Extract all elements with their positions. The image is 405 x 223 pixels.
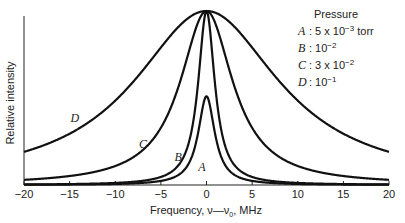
legend-value-C: : 3 x 10−2: [309, 58, 355, 71]
x-tick-label: 15: [337, 188, 349, 200]
x-tick-label: −10: [106, 188, 125, 200]
legend-entries: A: 5 x 10−3 torrB: 10−2C: 3 x 10−2D: 10−…: [297, 24, 374, 89]
legend-value-D: : 10−1: [309, 75, 337, 88]
y-axis-title: Relative intensity: [4, 61, 16, 145]
legend-key-A: A: [297, 24, 306, 38]
curve-label-B: B: [175, 150, 183, 164]
x-tick-label: −15: [60, 188, 79, 200]
legend-key-D: D: [297, 75, 307, 89]
legend-key-C: C: [298, 58, 307, 72]
curve-label-A: A: [197, 160, 206, 174]
x-tick-label: −20: [15, 188, 34, 200]
legend-title: Pressure: [314, 8, 358, 20]
x-tick-label: 5: [249, 188, 255, 200]
curve-B: [24, 11, 389, 184]
curve-label-D: D: [70, 111, 80, 125]
x-tick-label: 10: [292, 188, 304, 200]
x-tick-label: −5: [155, 188, 168, 200]
x-axis-title: Frequency, ν—ν0, MHz: [150, 204, 262, 218]
legend: Pressure A: 5 x 10−3 torrB: 10−2C: 3 x 1…: [297, 8, 374, 89]
line-chart: −20−15−10−505101520 ABCD Frequency, ν—ν0…: [0, 0, 405, 223]
legend-value-A: : 5 x 10−3 torr: [309, 24, 374, 37]
legend-value-B: : 10−2: [309, 41, 337, 54]
x-tick-label: 20: [383, 188, 395, 200]
curves: [24, 11, 389, 185]
legend-key-B: B: [298, 41, 306, 55]
curve-A: [24, 96, 389, 184]
curve-label-C: C: [139, 137, 148, 151]
x-tick-label: 0: [203, 188, 209, 200]
